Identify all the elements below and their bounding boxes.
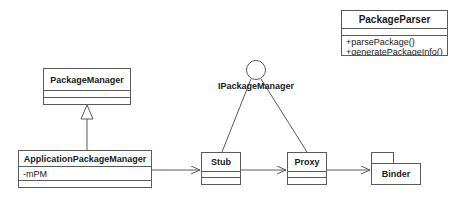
class-box-application-package-manager[interactable]: ApplicationPackageManager -mPM — [18, 150, 152, 188]
methods-compartment-stub — [202, 178, 240, 184]
method-parse-package: +parsePackage() — [342, 37, 447, 47]
attribute-mpm: -mPM — [19, 167, 151, 181]
generalization-apm-to-pm — [81, 105, 93, 150]
attributes-compartment-package-manager — [44, 91, 130, 98]
methods-compartment-package-manager — [44, 98, 130, 105]
class-box-proxy[interactable]: Proxy — [287, 152, 327, 185]
methods-compartment-application-package-manager — [19, 181, 151, 188]
uml-diagram-canvas: PackageParser +parsePackage() +generateP… — [0, 0, 457, 207]
class-name-stub: Stub — [202, 153, 240, 172]
package-label-binder: Binder — [382, 169, 411, 179]
package-node-binder[interactable]: Binder — [371, 163, 421, 185]
attributes-compartment-package-parser — [342, 29, 447, 36]
class-name-package-parser: PackageParser — [342, 11, 447, 29]
class-box-package-manager[interactable]: PackageManager — [43, 68, 131, 105]
class-box-package-parser[interactable]: PackageParser +parsePackage() +generateP… — [341, 10, 448, 56]
class-name-application-package-manager: ApplicationPackageManager — [19, 151, 151, 167]
methods-compartment-proxy — [288, 178, 326, 184]
class-name-package-manager: PackageManager — [44, 69, 130, 91]
class-name-proxy: Proxy — [288, 153, 326, 172]
interface-label-ipackagemanager: IPackageManager — [196, 81, 316, 92]
class-box-stub[interactable]: Stub — [201, 152, 241, 185]
methods-compartment-package-parser: +parsePackage() +generatePackageInfo() — [342, 36, 447, 55]
method-generate-package-info: +generatePackageInfo() — [342, 47, 447, 55]
interface-lollipop-icon[interactable] — [246, 60, 266, 80]
